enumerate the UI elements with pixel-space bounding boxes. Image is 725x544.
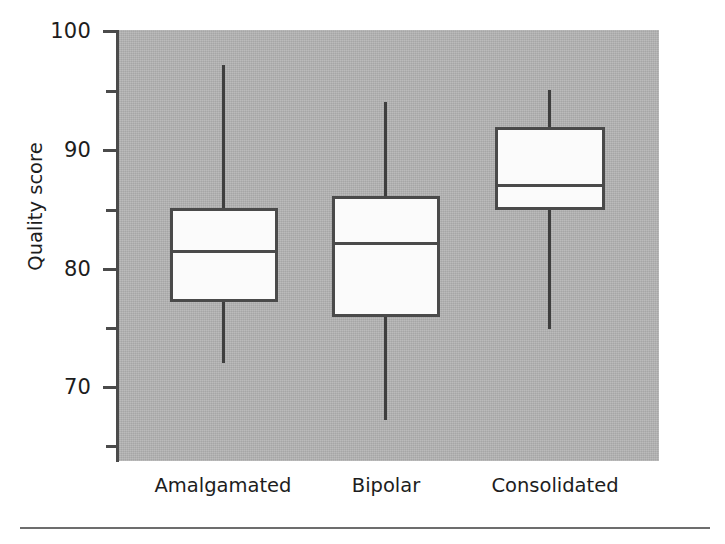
y-tick-95 [106, 90, 119, 93]
median-bipolar [332, 242, 440, 245]
bottom-rule [20, 527, 710, 529]
y-tick-label-80: 80 [64, 257, 91, 281]
box-consolidated [495, 127, 605, 210]
y-tick-100 [103, 30, 119, 33]
x-label-bipolar: Bipolar [316, 474, 456, 497]
x-label-consolidated: Consolidated [470, 474, 640, 497]
y-tick-85 [106, 209, 119, 212]
whisker-lower-consolidated [548, 207, 551, 329]
median-consolidated [495, 184, 605, 187]
whisker-upper-bipolar [384, 102, 387, 198]
y-tick-65 [106, 445, 119, 448]
y-axis-title: Quality score [24, 137, 47, 277]
y-tick-80 [103, 268, 119, 271]
y-tick-90 [103, 149, 119, 152]
y-axis-spine [116, 30, 119, 462]
boxplot-figure: 100 90 80 70 Quality score Amalgamated B… [0, 0, 725, 544]
y-tick-75 [106, 327, 119, 330]
x-label-amalgamated: Amalgamated [138, 474, 308, 497]
box-bipolar [332, 196, 440, 317]
whisker-upper-amalgamated [222, 65, 225, 210]
whisker-upper-consolidated [548, 90, 551, 132]
median-amalgamated [170, 250, 278, 253]
box-amalgamated [170, 208, 278, 302]
whisker-lower-amalgamated [222, 299, 225, 363]
y-tick-label-90: 90 [64, 138, 91, 162]
y-tick-label-70: 70 [64, 375, 91, 399]
y-tick-label-100: 100 [50, 19, 91, 43]
y-tick-70 [103, 386, 119, 389]
whisker-lower-bipolar [384, 314, 387, 420]
